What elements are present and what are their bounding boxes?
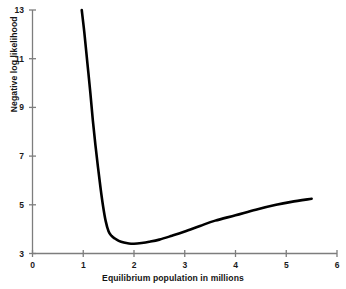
x-tick-label: 4: [233, 261, 238, 270]
x-tick-label: 1: [81, 261, 86, 270]
x-tick-label: 6: [335, 261, 340, 270]
y-tick-label: 3: [8, 249, 24, 258]
x-axis-title: Equilibrium population in millions: [0, 274, 346, 283]
x-tick-label: 3: [182, 261, 187, 270]
x-tick-label: 0: [30, 261, 35, 270]
chart-plot-area: [0, 0, 346, 289]
chart-figure: 35791113 0123456 Equilibrium population …: [0, 0, 346, 289]
y-tick-label: 7: [8, 152, 24, 161]
data-series-line: [82, 10, 312, 244]
y-axis-title: Negative log likelihood: [10, 0, 19, 129]
x-tick-label: 2: [132, 261, 137, 270]
x-tick-label: 5: [284, 261, 289, 270]
axis-group: [32, 10, 337, 254]
y-tick-label: 5: [8, 201, 24, 210]
